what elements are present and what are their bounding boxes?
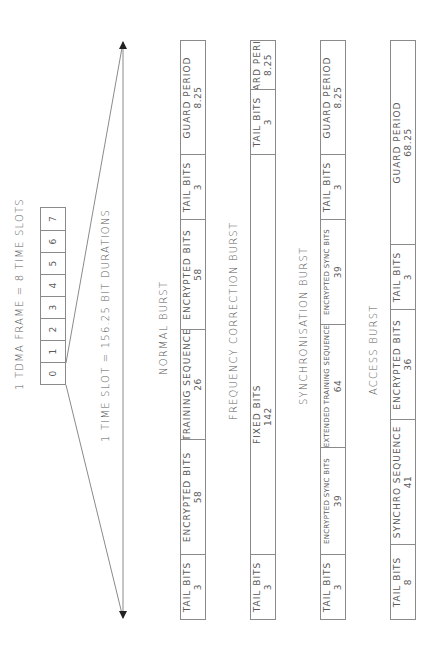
fcb-fixed-bits: FIXED BITS142 [251, 154, 275, 554]
normal-training-sequence: TRAINING SEQUENCE26 [181, 329, 205, 439]
access-guard-period: GUARD PERIOD68.25 [391, 41, 415, 244]
sync-burst-row: TAIL BITS3 ENCRYPTED SYNC BITS39 EXTENDE… [320, 40, 346, 620]
access-burst-title: ACCESS BURST [368, 305, 379, 396]
sync-tail-bits-2: TAIL BITS3 [321, 154, 345, 219]
normal-encrypted-bits-1: ENCRYPTED BITS58 [181, 439, 205, 554]
access-encrypted-bits: ENCRYPTED BITS36 [391, 309, 415, 419]
access-burst-row: TAIL BITS8 SYNCHRO SEQUENCE41 ENCRYPTED … [390, 40, 416, 620]
normal-encrypted-bits-2: ENCRYPTED BITS58 [181, 219, 205, 329]
sync-extended-training-sequence: EXTENDED TRAINING SEQUENCE64 [321, 324, 345, 447]
sync-burst-title: SYNCHRONISATION BURST [298, 247, 309, 405]
normal-tail-bits-2: TAIL BITS3 [181, 154, 205, 219]
access-synchro-sequence: SYNCHRO SEQUENCE41 [391, 419, 415, 544]
normal-burst-row: TAIL BITS3 ENCRYPTED BITS58 TRAINING SEQ… [180, 40, 206, 620]
sync-tail-bits: TAIL BITS3 [321, 554, 345, 619]
fcb-tail-bits: TAIL BITS3 [251, 554, 275, 619]
sync-encrypted-sync-bits-2: ENCRYPTED SYNC BITS39 [321, 219, 345, 324]
access-tail-bits-2: TAIL BITS3 [391, 244, 415, 309]
normal-guard-period: GUARD PERIOD8.25 [181, 41, 205, 154]
fcb-tail-bits-2: TAIL BITS3 [251, 89, 275, 154]
normal-tail-bits: TAIL BITS3 [181, 554, 205, 619]
gsm-burst-diagram: 1 TDMA FRAME = 8 TIME SLOTS 0 1 2 3 4 5 … [0, 0, 439, 660]
sync-guard-period: GUARD PERIOD8.25 [321, 41, 345, 154]
fan-line-right [66, 42, 123, 363]
sync-encrypted-sync-bits-1: ENCRYPTED SYNC BITS39 [321, 447, 345, 554]
fcb-title: FREQUENCY CORRECTION BURST [228, 222, 239, 420]
access-tail-bits: TAIL BITS8 [391, 544, 415, 619]
fan-line-left [66, 385, 123, 618]
fcb-guard-period: GUARD PERIOD8.25 [251, 41, 275, 89]
fcb-row: TAIL BITS3 FIXED BITS142 TAIL BITS3 GUAR… [250, 40, 276, 620]
normal-burst-title: NORMAL BURST [158, 281, 169, 375]
